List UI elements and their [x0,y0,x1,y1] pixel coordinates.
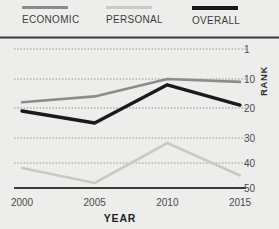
legend-item-economic[interactable]: ECONOMIC [22,6,79,25]
x-axis-title: YEAR [0,212,240,224]
chart-legend: ECONOMIC PERSONAL OVERALL [0,0,279,38]
legend-item-overall[interactable]: OVERALL [192,6,240,26]
y-tick-30: 30 [244,133,266,144]
plot-area [0,36,279,196]
y-tick-20: 20 [244,103,266,114]
y-axis-title: RANK [258,66,269,96]
x-tick-2010: 2010 [156,197,178,208]
legend-swatch-personal [106,6,152,9]
legend-swatch-overall [192,6,238,10]
legend-label-personal: PERSONAL [106,14,163,25]
x-tick-2005: 2005 [84,197,106,208]
y-tick-1: 1 [244,44,266,55]
x-tick-2015: 2015 [229,197,251,208]
y-tick-40: 40 [244,158,266,169]
legend-label-economic: ECONOMIC [22,14,79,25]
legend-item-personal[interactable]: PERSONAL [106,6,163,25]
series-line-overall[interactable] [22,85,240,123]
series-line-economic[interactable] [22,79,240,102]
rank-line-chart: ECONOMIC PERSONAL OVERALL 11020304050 RA… [0,0,279,229]
legend-label-overall: OVERALL [192,15,240,26]
legend-swatch-economic [22,6,68,9]
plot-svg [0,36,279,196]
y-tick-50: 50 [244,183,266,194]
x-tick-2000: 2000 [11,197,33,208]
